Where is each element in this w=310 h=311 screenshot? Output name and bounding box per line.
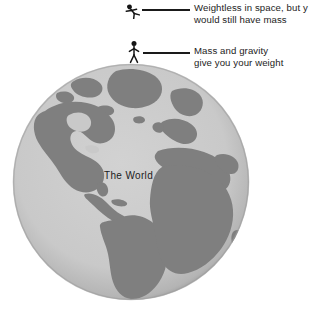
diagram-canvas: The World Weightless in space, but y wou… (0, 0, 310, 311)
annotation-weightless-line2: would still have mass (194, 14, 308, 26)
globe (12, 63, 250, 301)
annotation-gravity-line2: give you your weight (194, 57, 283, 69)
globe-illustration (12, 63, 250, 301)
floating-astronaut-icon (124, 1, 144, 19)
annotation-gravity-text: Mass and gravity give you your weight (194, 45, 283, 69)
iceland-shape (133, 116, 145, 123)
standing-person-icon (127, 40, 141, 64)
leader-line-weightless (142, 9, 190, 11)
globe-caption: The World (104, 170, 153, 181)
leader-line-gravity (143, 52, 190, 54)
annotation-gravity-line1: Mass and gravity (194, 45, 283, 57)
annotation-weightless-line1: Weightless in space, but y (194, 2, 308, 14)
annotation-weightless-text: Weightless in space, but y would still h… (194, 2, 308, 26)
